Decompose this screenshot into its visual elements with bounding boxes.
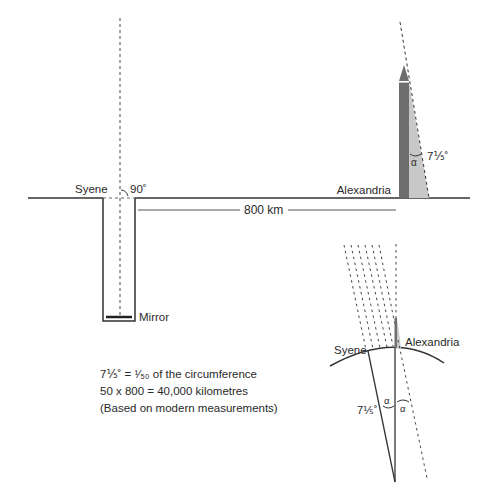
notes: 7⅕˚ = ¹⁄₅₀ of the circumference 50 x 800… (100, 368, 278, 414)
top-diagram: Syene 90˚ 800 km α 7⅕˚ Alexandria Mirror (28, 18, 470, 323)
obelisk (399, 82, 409, 198)
distance-label: 800 km (244, 203, 283, 217)
alpha-right: α (400, 403, 406, 414)
right-angle-arc (121, 190, 128, 196)
center-angle-label: 7⅕˚ (357, 404, 377, 416)
bottom-syene-label: Syene (334, 344, 367, 356)
note-line-1: 7⅕˚ = ¹⁄₅₀ of the circumference (100, 368, 257, 380)
angle-90-label: 90˚ (130, 183, 147, 195)
note-line-3: (Based on modern measurements) (100, 402, 278, 414)
alpha-center: α (384, 395, 390, 406)
alexandria-label: Alexandria (337, 184, 392, 196)
parallel-sun-rays (344, 244, 398, 350)
radius-syene (368, 351, 395, 482)
obelisk-tip (399, 65, 409, 81)
obelisk-shadow (409, 82, 429, 198)
mirror-label: Mirror (139, 311, 169, 323)
syene-label: Syene (75, 183, 108, 195)
shadow-angle-label: 7⅕˚ (427, 150, 448, 162)
alpha-arc-right (397, 400, 409, 402)
well (103, 198, 135, 321)
alpha-arc-center (383, 406, 394, 408)
bottom-alexandria-label: Alexandria (405, 336, 460, 348)
bottom-diagram: α α 7⅕˚ Syene Alexandria (330, 244, 460, 482)
small-obelisk (395, 318, 398, 348)
small-obelisk-shadow (397, 318, 401, 348)
note-line-2: 50 x 800 = 40,000 kilometres (100, 385, 248, 397)
alpha-symbol: α (411, 157, 417, 168)
eratosthenes-diagram: Syene 90˚ 800 km α 7⅕˚ Alexandria Mirror… (0, 0, 486, 491)
